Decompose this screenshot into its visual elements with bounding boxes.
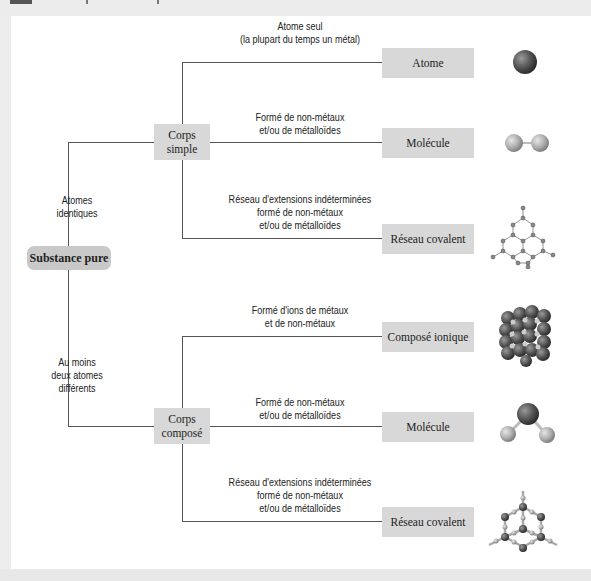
text-line: Réseau d'extensions indéterminées bbox=[205, 193, 394, 206]
result-label: Réseau covalent bbox=[390, 232, 465, 246]
node-corps-simple: Corps simple bbox=[154, 124, 210, 160]
edge-label-molecule-compose: Formé de non-métaux et/ou de métalloïdes bbox=[214, 396, 386, 422]
text-line: deux atomes bbox=[47, 369, 107, 382]
result-label: Molécule bbox=[406, 136, 449, 150]
text-line: Atome seul bbox=[214, 20, 386, 33]
text-line: Formé de non-métaux bbox=[214, 396, 386, 409]
text-line: formé de non-métaux bbox=[205, 206, 394, 219]
text-line: formé de non-métaux bbox=[205, 489, 394, 502]
connector bbox=[182, 444, 183, 521]
text-line: et de non-métaux bbox=[214, 317, 386, 330]
node-corps-compose: Corps composé bbox=[154, 408, 210, 444]
header-tab-marker bbox=[10, 0, 32, 4]
result-molecule-compose: Molécule bbox=[382, 412, 474, 442]
edge-label-reseau-simple: Réseau d'extensions indéterminées formé … bbox=[205, 193, 394, 232]
text-line: Atomes bbox=[47, 194, 107, 207]
diatomic-molecule-icon bbox=[502, 130, 552, 156]
result-label: Atome bbox=[412, 56, 443, 70]
connector bbox=[210, 426, 382, 427]
text-line: composé bbox=[162, 426, 203, 440]
connector bbox=[68, 142, 154, 143]
text-line: Formé de non-métaux bbox=[214, 111, 386, 124]
text-line: différents bbox=[47, 382, 107, 395]
connector bbox=[210, 142, 382, 143]
connector bbox=[182, 62, 183, 124]
connector bbox=[68, 270, 69, 426]
connector bbox=[68, 426, 154, 427]
text-line: et/ou de métalloïdes bbox=[214, 409, 386, 422]
result-reseau-covalent-simple: Réseau covalent bbox=[382, 224, 474, 254]
result-compose-ionique: Composé ionique bbox=[382, 322, 474, 352]
text-line: et/ou de métalloïdes bbox=[214, 124, 386, 137]
result-label: Réseau covalent bbox=[390, 515, 465, 529]
edge-label-atome-seul: Atome seul (la plupart du temps un métal… bbox=[214, 20, 386, 46]
branch-label-identical: Atomes identiques bbox=[47, 194, 107, 220]
connector bbox=[182, 160, 183, 238]
text-line: et/ou de métalloïdes bbox=[205, 502, 394, 515]
compound-network-icon bbox=[485, 487, 561, 557]
text-line: Corps bbox=[162, 412, 203, 426]
text-line: Au moins bbox=[47, 356, 107, 369]
ionic-lattice-icon bbox=[496, 304, 556, 368]
root-node-substance-pure: Substance pure bbox=[27, 246, 111, 270]
bent-molecule-icon bbox=[496, 400, 560, 448]
top-strip bbox=[0, 0, 591, 16]
connector bbox=[182, 336, 382, 337]
result-label: Molécule bbox=[406, 420, 449, 434]
connector bbox=[182, 521, 382, 522]
header-tick bbox=[157, 0, 159, 4]
root-label: Substance pure bbox=[30, 251, 109, 265]
covalent-network-icon bbox=[488, 203, 558, 269]
connector bbox=[182, 62, 382, 63]
single-atom-icon bbox=[505, 48, 545, 78]
connector bbox=[182, 238, 382, 239]
text-line: Réseau d'extensions indéterminées bbox=[205, 476, 394, 489]
text-line: et/ou de métalloïdes bbox=[205, 219, 394, 232]
edge-label-ionique: Formé d'ions de métaux et de non-métaux bbox=[214, 304, 386, 330]
bottom-strip bbox=[0, 569, 591, 581]
text-line: (la plupart du temps un métal) bbox=[214, 33, 386, 46]
result-label: Composé ionique bbox=[388, 330, 469, 344]
text-line: Formé d'ions de métaux bbox=[214, 304, 386, 317]
result-molecule-simple: Molécule bbox=[382, 128, 474, 158]
edge-label-reseau-compose: Réseau d'extensions indéterminées formé … bbox=[205, 476, 394, 515]
connector bbox=[182, 336, 183, 408]
text-line: Corps bbox=[167, 128, 198, 142]
result-reseau-covalent-compose: Réseau covalent bbox=[382, 507, 474, 537]
edge-label-molecule-simple: Formé de non-métaux et/ou de métalloïdes bbox=[214, 111, 386, 137]
header-tick bbox=[86, 0, 88, 4]
text-line: simple bbox=[167, 142, 198, 156]
result-atome: Atome bbox=[382, 48, 474, 78]
text-line: identiques bbox=[47, 207, 107, 220]
branch-label-different: Au moins deux atomes différents bbox=[47, 356, 107, 395]
